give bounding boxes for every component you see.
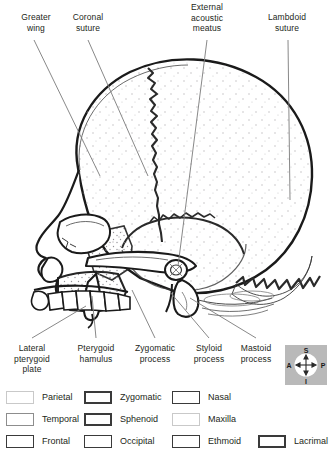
compass-posterior-label: P xyxy=(321,362,326,369)
legend-row-1: Parietal Zygomatic Nasal xyxy=(0,386,331,408)
legend-label-maxilla: Maxilla xyxy=(208,414,236,424)
diagram-page: Greater wing Coronal suture External aco… xyxy=(0,0,331,454)
legend-item-ethmoid[interactable]: Ethmoid xyxy=(172,430,241,452)
label-pterygoid-hamulus: Pterygoid hamulus xyxy=(68,343,124,364)
label-external-acoustic-meatus: External acoustic meatus xyxy=(178,2,236,34)
legend-label-occipital: Occipital xyxy=(120,436,155,446)
legend-item-temporal[interactable]: Temporal xyxy=(6,408,79,430)
legend-swatch-nasal xyxy=(172,391,200,404)
label-coronal-suture: Coronal suture xyxy=(62,12,114,33)
legend-swatch-occipital xyxy=(84,435,112,448)
legend-swatch-sphenoid xyxy=(84,413,112,426)
bone-legend: Parietal Zygomatic Nasal Temporal Spheno… xyxy=(0,386,331,452)
legend-label-parietal: Parietal xyxy=(42,392,73,402)
legend-label-frontal: Frontal xyxy=(42,436,70,446)
legend-row-2: Temporal Sphenoid Maxilla xyxy=(0,408,331,430)
legend-item-maxilla[interactable]: Maxilla xyxy=(172,408,236,430)
legend-item-lacrimal[interactable]: Lacrimal xyxy=(258,430,328,452)
legend-item-parietal[interactable]: Parietal xyxy=(6,386,73,408)
compass-anterior-label: A xyxy=(286,362,291,369)
legend-label-sphenoid: Sphenoid xyxy=(120,414,158,424)
legend-label-lacrimal: Lacrimal xyxy=(294,436,328,446)
orientation-compass: S I A P xyxy=(285,345,327,385)
leader-lateral-pterygoid-plate xyxy=(32,306,86,338)
legend-swatch-lacrimal xyxy=(258,435,286,448)
label-zygomatic-process: Zygomatic process xyxy=(127,343,183,364)
legend-item-occipital[interactable]: Occipital xyxy=(84,430,155,452)
compass-icon: S I A P xyxy=(285,345,327,385)
upper-teeth xyxy=(31,291,130,311)
legend-item-zygomatic[interactable]: Zygomatic xyxy=(84,386,162,408)
label-greater-wing: Greater wing xyxy=(10,12,62,33)
legend-swatch-temporal xyxy=(6,413,34,426)
nuchal-lines xyxy=(198,291,274,316)
label-lateral-pterygoid-plate: Lateral pterygoid plate xyxy=(6,343,58,375)
label-lambdoid-suture: Lambdoid suture xyxy=(258,12,316,33)
compass-inferior-label: I xyxy=(305,378,307,385)
legend-label-nasal: Nasal xyxy=(208,392,231,402)
legend-row-3: Frontal Occipital Ethmoid Lacrimal xyxy=(0,430,331,452)
external-acoustic-meatus-opening xyxy=(165,260,187,280)
leader-zygomatic-process xyxy=(132,290,155,338)
legend-swatch-zygomatic xyxy=(84,391,112,404)
legend-swatch-ethmoid xyxy=(172,435,200,448)
legend-label-zygomatic: Zygomatic xyxy=(120,392,162,402)
legend-swatch-parietal xyxy=(6,391,34,404)
legend-label-temporal: Temporal xyxy=(42,414,79,424)
legend-item-nasal[interactable]: Nasal xyxy=(172,386,231,408)
label-styloid-process: Styloid process xyxy=(186,343,232,364)
legend-item-sphenoid[interactable]: Sphenoid xyxy=(84,408,158,430)
legend-label-ethmoid: Ethmoid xyxy=(208,436,241,446)
legend-item-frontal[interactable]: Frontal xyxy=(6,430,70,452)
orbital-cavity xyxy=(58,215,110,254)
label-mastoid-process: Mastoid process xyxy=(231,343,281,364)
legend-swatch-frontal xyxy=(6,435,34,448)
compass-superior-label: S xyxy=(304,347,309,354)
legend-swatch-maxilla xyxy=(172,413,200,426)
